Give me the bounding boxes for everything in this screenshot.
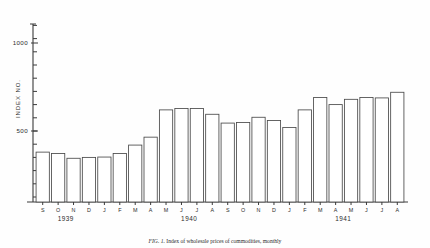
x-month-label: J bbox=[288, 207, 291, 213]
bar bbox=[375, 98, 388, 202]
x-month-label: J bbox=[381, 207, 384, 213]
x-month-label: J bbox=[180, 207, 183, 213]
x-month-label: J bbox=[103, 207, 106, 213]
bar bbox=[113, 154, 126, 202]
x-month-label: D bbox=[87, 207, 91, 213]
y-tick-label: 1000 bbox=[13, 39, 29, 46]
x-month-label: O bbox=[56, 207, 60, 213]
bar bbox=[252, 117, 265, 202]
bar bbox=[129, 145, 142, 202]
bar bbox=[159, 110, 172, 202]
x-month-label: A bbox=[395, 207, 399, 213]
bar bbox=[190, 108, 203, 202]
figure-caption: FIG. 1. Index of wholesale prices of com… bbox=[148, 238, 282, 244]
x-year-label: 1940 bbox=[181, 215, 197, 222]
bar bbox=[283, 127, 296, 202]
bar bbox=[344, 99, 357, 202]
x-month-label: M bbox=[133, 207, 138, 213]
x-month-label: S bbox=[226, 207, 230, 213]
bar bbox=[52, 154, 65, 202]
x-year-label-group: 193919401941 bbox=[58, 215, 352, 222]
figure-container: INDEX NO. 5001000 SONDJFMAMJJASONDJFMAMJ… bbox=[0, 0, 430, 248]
bar-chart: INDEX NO. 5001000 SONDJFMAMJJASONDJFMAMJ… bbox=[0, 0, 430, 248]
bar bbox=[206, 114, 219, 202]
x-year-label: 1939 bbox=[58, 215, 74, 222]
chart-svg: INDEX NO. 5001000 SONDJFMAMJJASONDJFMAMJ… bbox=[0, 0, 430, 248]
x-month-label: A bbox=[149, 207, 153, 213]
x-month-label: F bbox=[118, 207, 122, 213]
x-month-label: S bbox=[41, 207, 45, 213]
x-month-label: N bbox=[72, 207, 76, 213]
x-month-label: A bbox=[210, 207, 214, 213]
bar bbox=[267, 120, 280, 202]
bar bbox=[314, 98, 327, 202]
x-month-label: D bbox=[272, 207, 276, 213]
y-tick-label: 500 bbox=[16, 127, 28, 134]
x-month-label: F bbox=[303, 207, 307, 213]
bar bbox=[221, 123, 234, 202]
bar bbox=[298, 110, 311, 202]
bar bbox=[391, 92, 404, 202]
bar bbox=[82, 157, 95, 202]
bar bbox=[36, 152, 49, 202]
bar bbox=[237, 123, 250, 202]
x-month-label: O bbox=[241, 207, 245, 213]
x-month-label: A bbox=[334, 207, 338, 213]
bar bbox=[175, 108, 188, 202]
bar bbox=[98, 157, 111, 202]
y-axis-title: INDEX NO. bbox=[15, 79, 21, 118]
bar bbox=[144, 137, 157, 202]
bar bbox=[329, 105, 342, 202]
x-month-label: N bbox=[257, 207, 261, 213]
x-month-label: M bbox=[318, 207, 323, 213]
x-month-label: M bbox=[164, 207, 169, 213]
bar bbox=[67, 158, 80, 202]
x-month-label: M bbox=[349, 207, 354, 213]
x-month-label: J bbox=[365, 207, 368, 213]
x-month-label: J bbox=[196, 207, 199, 213]
x-month-label-group: SONDJFMAMJJASONDJFMAMJJA bbox=[41, 207, 400, 213]
bar-group bbox=[36, 92, 404, 202]
bar bbox=[360, 98, 373, 202]
x-year-label: 1941 bbox=[335, 215, 351, 222]
